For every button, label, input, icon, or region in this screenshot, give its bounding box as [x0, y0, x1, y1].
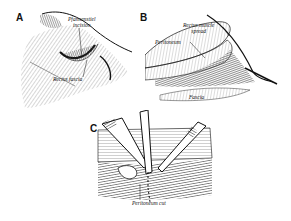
label-pfannenstiel-incision: Pfannenstiel incision: [68, 17, 96, 29]
panel-letter-c: C: [90, 124, 97, 134]
rectus-muscle-spread-illustration: [145, 0, 291, 110]
panel-c: C Peritoneum cut: [90, 110, 220, 221]
panel-b: B Rectus muscle spread Peritoneum Fascia: [145, 0, 291, 110]
label-rectus-muscle-spread: Rectus muscle spread: [183, 23, 214, 35]
label-fascia: Fascia: [189, 95, 204, 101]
label-rectus-fascia: Rectus fascia: [53, 77, 82, 83]
panel-a: A Pfannenstiel incision Rectus fascia: [0, 0, 145, 110]
label-muscle-line2: spread: [191, 28, 206, 34]
panel-letter-b: B: [140, 13, 147, 23]
panel-letter-a: A: [16, 13, 23, 23]
label-peritoneum-cut: Peritoneum cut: [132, 201, 166, 207]
label-incision-line2: incision: [73, 22, 90, 28]
label-peritoneum: Peritoneum: [155, 40, 181, 46]
